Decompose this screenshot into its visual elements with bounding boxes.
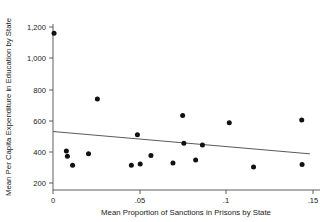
data-point xyxy=(86,151,91,156)
y-axis-ticks: 200 400 600 800 1,000 1,200 xyxy=(27,23,53,188)
data-point xyxy=(180,113,185,118)
data-point xyxy=(148,153,153,158)
data-point xyxy=(64,149,69,154)
y-tick-200: 200 xyxy=(33,179,53,188)
x-tick-label: 0 xyxy=(51,196,55,205)
y-tick-1200: 1,200 xyxy=(27,23,53,32)
y-tick-label: 400 xyxy=(33,148,46,157)
x-tick-005: .05 xyxy=(135,190,146,205)
data-point xyxy=(200,142,205,147)
y-tick-1000: 1,000 xyxy=(27,54,53,63)
data-point xyxy=(170,161,175,166)
data-point xyxy=(181,141,186,146)
y-tick-600: 600 xyxy=(33,117,53,126)
data-point xyxy=(129,163,134,168)
y-tick-800: 800 xyxy=(33,86,53,95)
x-tick-01: .1 xyxy=(223,190,229,205)
data-point xyxy=(299,117,304,122)
data-point xyxy=(95,96,100,101)
data-points-group xyxy=(52,31,305,170)
data-point xyxy=(65,154,70,159)
data-point xyxy=(300,162,305,167)
data-point xyxy=(70,163,75,168)
x-tick-label: .15 xyxy=(308,196,319,205)
y-tick-label: 800 xyxy=(33,86,46,95)
y-tick-label: 1,000 xyxy=(27,54,46,63)
data-point xyxy=(138,161,143,166)
y-tick-label: 200 xyxy=(33,179,46,188)
y-tick-label: 600 xyxy=(33,117,46,126)
y-tick-400: 400 xyxy=(33,148,53,157)
y-axis-title: Mean Per Capita Expenditure in Education… xyxy=(4,18,13,196)
x-tick-label: .1 xyxy=(223,196,229,205)
x-axis-ticks: 0 .05 .1 .15 xyxy=(51,190,318,205)
data-point xyxy=(227,120,232,125)
scatter-plot-figure: Mean Per Capita Expenditure in Education… xyxy=(0,0,332,222)
x-axis-title: Mean Proportion of Sanctions in Prisons … xyxy=(101,208,271,217)
data-point xyxy=(251,164,256,169)
data-point xyxy=(135,132,140,137)
plot-canvas: Mean Per Capita Expenditure in Education… xyxy=(0,0,332,222)
data-point xyxy=(193,157,198,162)
y-tick-label: 1,200 xyxy=(27,23,46,32)
data-point xyxy=(52,31,57,36)
x-tick-015: .15 xyxy=(308,190,319,205)
x-tick-label: .05 xyxy=(135,196,146,205)
x-tick-0: 0 xyxy=(51,190,55,205)
